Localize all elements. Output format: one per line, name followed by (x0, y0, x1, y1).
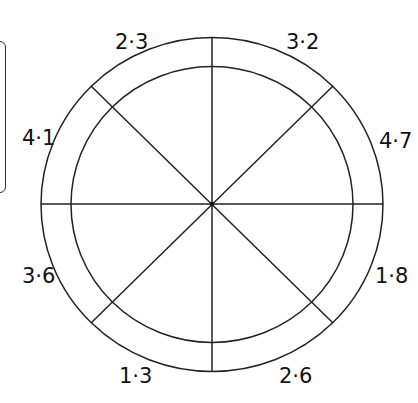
label-right-upper: 4·7 (379, 131, 412, 152)
label-top-left: 2·3 (115, 32, 148, 53)
label-bottom-right: 2·6 (279, 366, 312, 387)
center-point (210, 202, 214, 206)
label-bottom-left: 1·3 (119, 366, 152, 387)
label-top-right: 3·2 (286, 32, 319, 53)
segmented-circle-diagram (0, 0, 418, 403)
label-left-upper: 4·1 (22, 128, 55, 149)
label-right-lower: 1·8 (375, 266, 408, 287)
label-left-lower: 3·6 (22, 266, 55, 287)
